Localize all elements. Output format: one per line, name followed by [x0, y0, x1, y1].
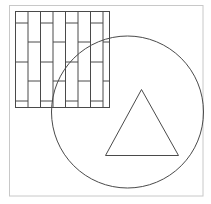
diagram-canvas — [0, 0, 211, 204]
circle-shape — [52, 36, 204, 188]
brick-pattern-square — [16, 12, 110, 108]
brick-square-border — [16, 12, 110, 108]
triangle-shape — [106, 90, 179, 156]
outer-frame — [10, 6, 204, 197]
